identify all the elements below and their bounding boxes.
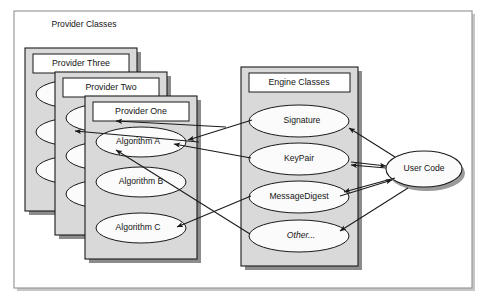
engine-class-keypair-label: KeyPair (284, 153, 314, 163)
engine-class-other-label: Other... (287, 230, 315, 240)
provider-panel-one[interactable]: Provider One Algorithm A Algorithm B Alg… (85, 96, 201, 263)
engine-class-messagedigest-label: MessageDigest (269, 191, 329, 201)
provider-two-title: Provider Two (85, 82, 136, 92)
provider-one-algorithm-c-label: Algorithm C (116, 222, 161, 232)
provider-one-title: Provider One (115, 106, 167, 116)
diagram-canvas: Provider Classes Provider Three Provider… (0, 0, 482, 302)
engine-classes-panel[interactable]: Engine Classes Signature KeyPair Message… (241, 67, 362, 270)
section-label: Provider Classes (52, 19, 117, 29)
provider-three-title: Provider Three (52, 58, 110, 68)
provider-one-algorithm-b-label: Algorithm B (119, 176, 164, 186)
engine-classes-title: Engine Classes (268, 77, 330, 87)
user-code-label: User Code (403, 163, 444, 173)
engine-class-signature-label: Signature (284, 115, 321, 125)
diagram-svg: Provider Classes Provider Three Provider… (0, 0, 482, 302)
